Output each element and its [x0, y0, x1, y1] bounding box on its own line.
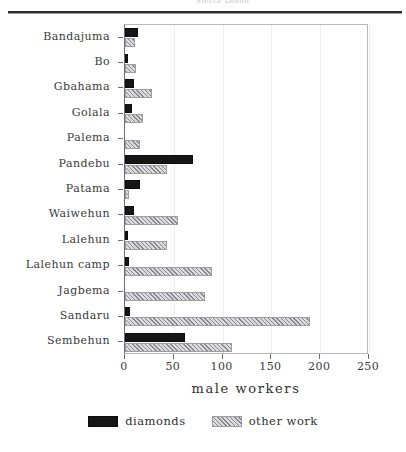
x-axis-tick-label: 100	[210, 360, 232, 373]
y-axis-label: Waiwehun	[49, 208, 110, 220]
x-axis-tick-label: 150	[259, 360, 281, 373]
y-axis-tick	[118, 62, 123, 63]
bar-group	[125, 101, 367, 126]
y-axis-tick	[118, 291, 123, 292]
x-axis-tick-label: 50	[165, 360, 180, 373]
x-axis-tick	[270, 354, 271, 359]
legend-item-other-work: other work	[212, 414, 318, 428]
bar-other-work	[125, 114, 143, 123]
bar-other-work	[125, 241, 167, 250]
bar-group	[125, 127, 367, 152]
bar-diamonds	[125, 180, 140, 189]
y-axis-tick	[118, 341, 123, 342]
y-axis-tick	[118, 189, 123, 190]
bar-group	[125, 253, 367, 278]
x-axis-tick-label: 0	[120, 360, 127, 373]
x-axis-tick	[173, 354, 174, 359]
y-axis-tick	[118, 265, 123, 266]
bar-other-work	[125, 317, 310, 326]
y-axis-label: Lalehun	[62, 234, 110, 246]
cropped-header-text: Sierra Leone	[196, 0, 346, 5]
bar-other-work	[125, 190, 129, 199]
bar-other-work	[125, 38, 135, 47]
x-axis-title: male workers	[124, 381, 368, 396]
bar-other-work	[125, 165, 167, 174]
bar-group	[125, 330, 367, 355]
gridline	[369, 25, 370, 353]
y-axis-tick	[118, 37, 123, 38]
legend-item-diamonds: diamonds	[88, 414, 185, 428]
x-axis-tick-label: 250	[357, 360, 379, 373]
bar-group	[125, 177, 367, 202]
bar-diamonds	[125, 54, 128, 63]
x-axis-tick	[319, 354, 320, 359]
bar-group	[125, 152, 367, 177]
legend-swatch-other-work-icon	[212, 416, 242, 427]
legend-swatch-diamonds-icon	[88, 416, 118, 427]
bar-diamonds	[125, 28, 138, 37]
y-axis-label: Lalehun camp	[26, 259, 110, 271]
bar-group	[125, 76, 367, 101]
y-axis-tick	[118, 113, 123, 114]
y-axis-tick	[118, 87, 123, 88]
y-axis-tick	[118, 164, 123, 165]
bar-other-work	[125, 216, 178, 225]
bar-group	[125, 228, 367, 253]
bar-diamonds	[125, 231, 128, 240]
bar-diamonds	[125, 206, 134, 215]
bar-group	[125, 50, 367, 75]
y-axis-label: Gbahama	[54, 81, 110, 93]
bar-other-work	[125, 89, 152, 98]
cropped-header-strip: Sierra Leone	[196, 0, 346, 7]
bar-other-work	[125, 343, 232, 352]
bar-group	[125, 203, 367, 228]
x-axis-tick	[368, 354, 369, 359]
y-axis-label: Sembehun	[47, 335, 110, 347]
bar-other-work	[125, 292, 205, 301]
bar-other-work	[125, 267, 212, 276]
bar-diamonds	[125, 104, 132, 113]
y-axis-label: Golala	[72, 107, 110, 119]
y-axis-label: Sandaru	[60, 310, 110, 322]
bar-diamonds	[125, 79, 134, 88]
y-axis-tick	[118, 138, 123, 139]
y-axis-category-labels: BandajumaBoGbahamaGolalaPalemaPandebuPat…	[0, 24, 118, 354]
y-axis-label: Jagbema	[58, 285, 110, 297]
bar-diamonds	[125, 257, 129, 266]
y-axis-tick	[118, 214, 123, 215]
legend-label-other-work: other work	[249, 414, 318, 428]
bar-group	[125, 304, 367, 329]
bar-diamonds	[125, 155, 193, 164]
chart-legend: diamonds other work	[0, 414, 406, 428]
bar-diamonds	[125, 333, 185, 342]
bar-chart-figure: Sierra Leone BandajumaBoGbahamaGolalaPal…	[0, 0, 406, 452]
legend-label-diamonds: diamonds	[125, 414, 185, 428]
x-axis-tick	[222, 354, 223, 359]
bar-group	[125, 279, 367, 304]
x-axis-tick-labels: 050100150200250	[0, 360, 406, 376]
x-axis-tick-label: 200	[308, 360, 330, 373]
bar-other-work	[125, 140, 140, 149]
x-axis-tick	[124, 354, 125, 359]
bar-group	[125, 25, 367, 50]
y-axis-label: Bo	[94, 56, 110, 68]
y-axis-label: Patama	[66, 183, 110, 195]
plot-area	[124, 24, 368, 354]
y-axis-label: Pandebu	[59, 158, 110, 170]
y-axis-label: Bandajuma	[43, 31, 110, 43]
top-horizontal-rule	[8, 11, 402, 13]
y-axis-tick	[118, 240, 123, 241]
y-axis-label: Palema	[67, 132, 110, 144]
bar-other-work	[125, 64, 136, 73]
bar-diamonds	[125, 307, 130, 316]
y-axis-tick	[118, 316, 123, 317]
